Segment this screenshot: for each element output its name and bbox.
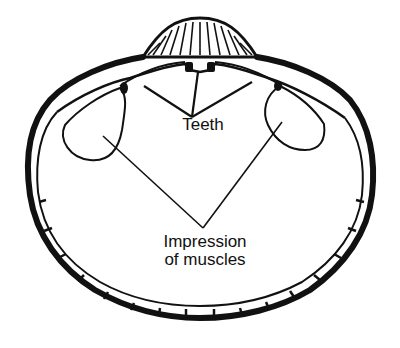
teeth-label-text: Teeth [182, 115, 224, 134]
muscle-scar-right [265, 86, 324, 150]
shell-diagram [0, 0, 400, 348]
shell-inner-margin [37, 112, 363, 306]
teeth-label: Teeth [170, 116, 236, 134]
muscle-impression-line1: Impression [140, 233, 270, 251]
muscle-impression-line2: of muscles [140, 251, 270, 269]
teeth-leader-lines [144, 72, 252, 117]
hinge-teeth [120, 62, 282, 94]
umbo [143, 18, 257, 57]
muscle-scar-left [63, 88, 125, 160]
muscles-leader-lines [103, 122, 282, 228]
muscle-impression-label: Impression of muscles [140, 233, 270, 269]
